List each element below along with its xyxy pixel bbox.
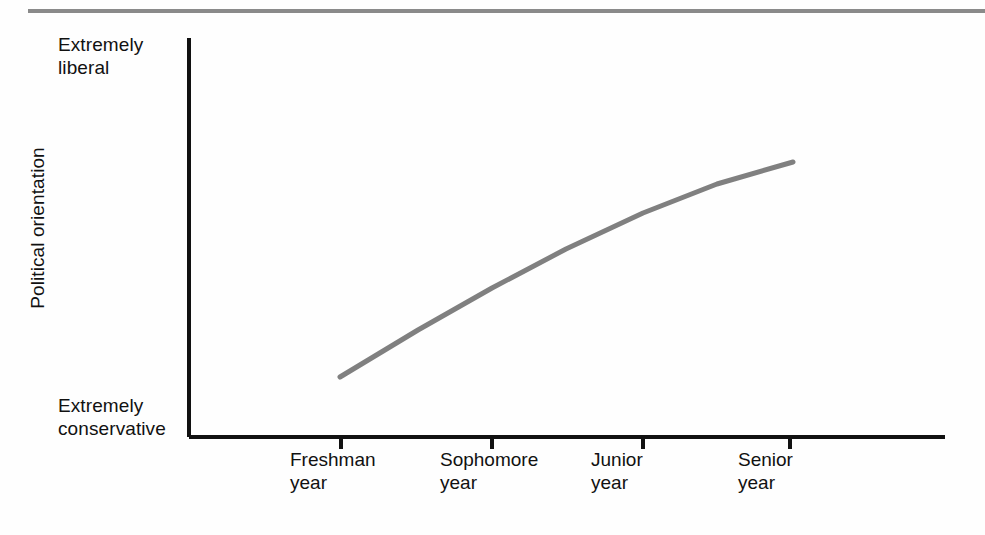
x-axis-label-3: Senior year: [738, 448, 793, 494]
data-line-political-orientation: [340, 162, 793, 377]
x-axis-label-0: Freshman year: [290, 448, 376, 494]
y-axis-min-label: Extremely conservative: [58, 394, 166, 440]
x-axis-label-1: Sophomore year: [440, 448, 538, 494]
data-series-group: [340, 162, 793, 377]
axes-group: [189, 38, 945, 437]
y-axis-title: Political orientation: [26, 128, 50, 328]
y-axis-max-label: Extremely liberal: [58, 33, 143, 79]
chart-figure: Extremely liberal Extremely conservative…: [0, 0, 985, 535]
x-axis-label-2: Junior year: [591, 448, 643, 494]
y-axis-title-text: Political orientation: [27, 147, 49, 309]
